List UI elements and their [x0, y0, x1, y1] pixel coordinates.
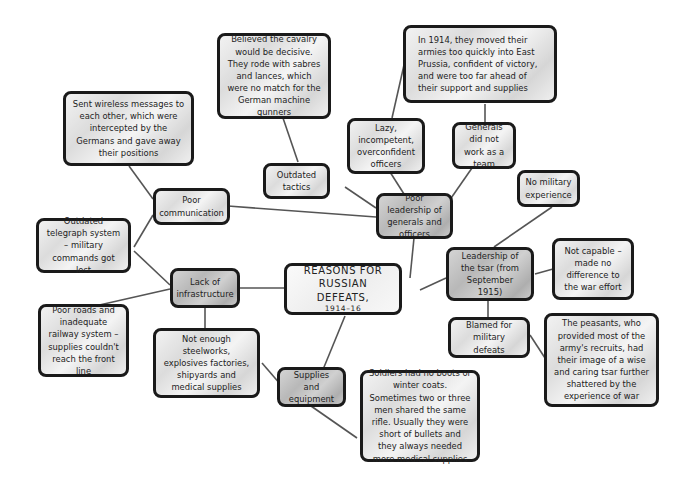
node-tsar-leadership: Leadership of the tsar (from September 1… [446, 247, 534, 301]
node-text: Not enough steelworks, explosives factor… [162, 333, 251, 394]
node-text: Supplies and equipment [286, 369, 337, 406]
central-topic: REASONS FOR RUSSIAN DEFEATS, 1914–16 [284, 263, 402, 315]
node-text: No military experience [525, 176, 571, 200]
node-generals-team: Generals did not work as a team [452, 122, 516, 169]
node-east-prussia: In 1914, they moved their armies too qui… [403, 25, 557, 103]
node-steelworks: Not enough steelworks, explosives factor… [153, 328, 260, 398]
node-text: In 1914, they moved their armies too qui… [418, 34, 542, 95]
node-text: Leadership of the tsar (from September 1… [455, 250, 525, 299]
node-poor-leadership: Poor leadership of generals and officers [376, 193, 453, 239]
node-lack-infrastructure: Lack of infrastructure [170, 268, 240, 308]
node-outdated-tactics: Outdated tactics [263, 163, 330, 199]
node-text: Generals did not work as a team [461, 121, 507, 170]
node-no-experience: No military experience [517, 170, 580, 207]
node-blamed: Blamed for military defeats [448, 317, 530, 358]
node-poor-communication: Poor communication [153, 188, 230, 225]
node-text: Not capable – made no difference to the … [561, 245, 625, 294]
title-line1: REASONS FOR [293, 264, 393, 278]
node-supplies-equipment: Supplies and equipment [277, 367, 346, 407]
node-text: The peasants, who provided most of the a… [553, 317, 650, 402]
node-text: Poor communication [159, 194, 224, 218]
node-text: Soldiers had no boots or winter coats. S… [369, 367, 471, 465]
node-text: Lack of infrastructure [176, 276, 233, 300]
node-text: Believed the cavalry would be decisive. … [226, 33, 322, 118]
node-text: Sent wireless messages to each other, wh… [72, 98, 185, 159]
node-text: Outdated tactics [272, 169, 321, 193]
node-cavalry: Believed the cavalry would be decisive. … [217, 33, 331, 119]
node-lazy-officers: Lazy, incompetent, overconfident officer… [347, 118, 425, 174]
title-years: 1914–16 [293, 304, 393, 314]
node-text: Lazy, incompetent, overconfident officer… [356, 122, 416, 171]
node-text: Outdated telegraph system – military com… [45, 215, 122, 276]
node-text: Blamed for military defeats [457, 319, 521, 356]
node-text: Poor leadership of generals and officers [385, 192, 444, 241]
node-roads-railway: Poor roads and inadequate railway system… [38, 304, 129, 377]
title-line2: RUSSIAN DEFEATS, [293, 277, 393, 304]
node-not-capable: Not capable – made no difference to the … [552, 238, 634, 300]
node-text: Poor roads and inadequate railway system… [47, 304, 120, 377]
node-telegraph: Outdated telegraph system – military com… [36, 218, 131, 273]
node-soldiers: Soldiers had no boots or winter coats. S… [360, 370, 480, 462]
node-wireless: Sent wireless messages to each other, wh… [63, 91, 194, 166]
node-peasants: The peasants, who provided most of the a… [544, 313, 659, 407]
